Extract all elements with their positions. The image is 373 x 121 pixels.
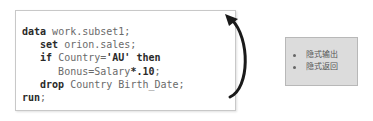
bullet-icon (293, 66, 296, 69)
identifier: Country Birth_Date; (64, 79, 184, 90)
bullet-icon (293, 54, 296, 57)
identifier: ; (154, 66, 160, 77)
identifier: work.subset1; (46, 26, 130, 37)
note-item-implicit-output: 隐式输出 (293, 49, 338, 61)
code-line: Bonus=Salary*.10; (22, 65, 185, 78)
identifier: ; (40, 92, 46, 103)
code-line: drop Country Birth_Date; (22, 78, 185, 91)
loop-arrow-icon (220, 8, 260, 108)
note-item-label: 隐式输出 (306, 49, 338, 61)
literal: *.10 (130, 66, 154, 77)
keyword: set (40, 39, 58, 50)
code-line: set orion.sales; (22, 38, 185, 51)
identifier: orion.sales; (58, 39, 136, 50)
identifier: Country= (52, 52, 106, 63)
code-line: data work.subset1; (22, 25, 185, 38)
identifier: Bonus=Salary (22, 66, 130, 77)
keyword: data (22, 26, 46, 37)
keyword: run (22, 92, 40, 103)
literal: 'AU' (106, 52, 130, 63)
identifier (22, 79, 40, 90)
note-list: 隐式输出 隐式返回 (293, 49, 338, 73)
identifier (22, 52, 40, 63)
keyword: drop (40, 79, 64, 90)
keyword: then (136, 52, 160, 63)
keyword: if (40, 52, 52, 63)
code-line: if Country='AU' then (22, 51, 185, 64)
code-line: run; (22, 91, 185, 104)
sas-code-block: data work.subset1; set orion.sales; if C… (15, 10, 236, 111)
implicit-actions-note: 隐式输出 隐式返回 (285, 37, 358, 86)
identifier (22, 39, 40, 50)
note-item-implicit-return: 隐式返回 (293, 61, 338, 73)
note-item-label: 隐式返回 (306, 61, 338, 73)
code-text: data work.subset1; set orion.sales; if C… (22, 25, 185, 104)
